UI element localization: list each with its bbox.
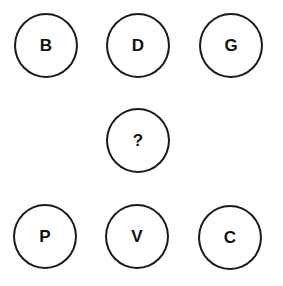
circle-label: B bbox=[40, 36, 52, 56]
circle-label: G bbox=[224, 36, 237, 56]
circle-v: V bbox=[105, 204, 169, 269]
circle-label: D bbox=[132, 36, 144, 56]
circle-d: D bbox=[106, 13, 170, 78]
circle-c: C bbox=[198, 205, 262, 270]
circle-question: ? bbox=[106, 108, 170, 173]
circle-g: G bbox=[199, 13, 263, 78]
circle-label: ? bbox=[133, 131, 143, 151]
circle-label: P bbox=[39, 227, 50, 247]
circle-label: V bbox=[131, 227, 142, 247]
circle-p: P bbox=[13, 204, 77, 269]
circle-label: C bbox=[224, 228, 236, 248]
circle-b: B bbox=[14, 13, 78, 78]
